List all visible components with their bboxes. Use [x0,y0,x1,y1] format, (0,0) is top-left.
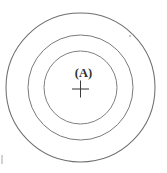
concentric-circles-diagram [0,0,167,173]
center-cross-marker [72,81,89,98]
center-label: (A) [0,67,167,80]
edge-artifact-mark [1,155,3,164]
speck-upper-right-icon [129,35,131,37]
figure-container: (A) [0,0,167,173]
